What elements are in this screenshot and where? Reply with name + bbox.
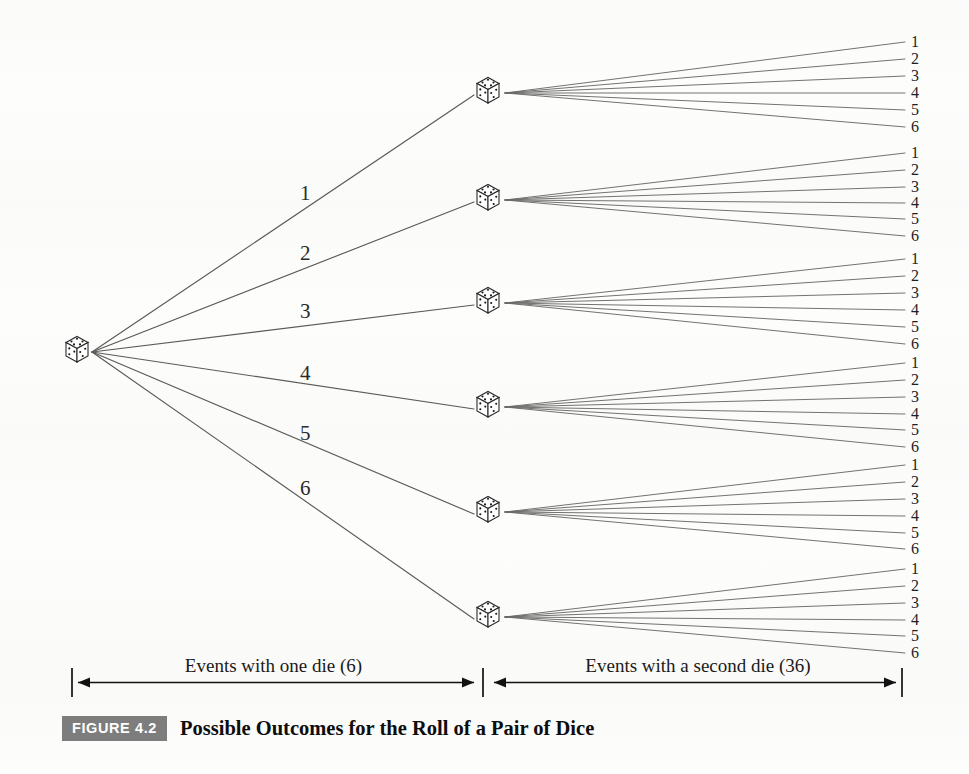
die-icon bbox=[477, 602, 499, 628]
branch-label-1: 1 bbox=[300, 183, 311, 204]
level-1-branch-lines bbox=[92, 95, 474, 619]
leaf-label: 3 bbox=[911, 491, 919, 507]
leaf-label: 6 bbox=[911, 439, 919, 455]
leaf-label: 6 bbox=[911, 336, 919, 352]
leaf-label: 3 bbox=[911, 68, 919, 84]
leaf-label: 4 bbox=[911, 406, 919, 422]
leaf-label: 4 bbox=[911, 85, 919, 101]
leaf-label: 3 bbox=[911, 285, 919, 301]
leaf-label: 4 bbox=[911, 612, 919, 628]
axis-caption-right: Events with a second die (36) bbox=[494, 655, 902, 677]
die-icon bbox=[477, 392, 499, 418]
branch-label-6: 6 bbox=[300, 478, 311, 499]
leaf-label: 4 bbox=[911, 302, 919, 318]
leaf-label: 2 bbox=[911, 162, 919, 178]
branch-label-5: 5 bbox=[300, 423, 311, 444]
leaf-label: 5 bbox=[911, 525, 919, 541]
figure-caption: FIGURE 4.2 Possible Outcomes for the Rol… bbox=[62, 716, 594, 741]
level-2-branch-lines bbox=[505, 42, 905, 653]
leaf-label: 2 bbox=[911, 268, 919, 284]
leaf-label: 1 bbox=[911, 251, 919, 267]
die-icon bbox=[477, 185, 499, 211]
leaf-label: 2 bbox=[911, 474, 919, 490]
leaf-label: 3 bbox=[911, 595, 919, 611]
die-icon bbox=[66, 337, 88, 363]
leaf-label: 1 bbox=[911, 145, 919, 161]
leaf-label: 5 bbox=[911, 211, 919, 227]
die-icon bbox=[477, 288, 499, 314]
figure-number-badge: FIGURE 4.2 bbox=[62, 716, 167, 741]
leaf-label: 1 bbox=[911, 561, 919, 577]
leaf-label: 2 bbox=[911, 578, 919, 594]
leaf-label: 4 bbox=[911, 195, 919, 211]
leaf-label: 3 bbox=[911, 179, 919, 195]
die-icon bbox=[477, 497, 499, 523]
leaf-label: 5 bbox=[911, 628, 919, 644]
axis-caption-left: Events with one die (6) bbox=[72, 655, 475, 677]
figure-page: 1 2 3 4 5 6 1 2 3 4 5 6 1 2 3 4 5 6 1 2 … bbox=[0, 0, 969, 774]
branch-label-3: 3 bbox=[300, 301, 311, 322]
leaf-label: 5 bbox=[911, 422, 919, 438]
leaf-label: 4 bbox=[911, 508, 919, 524]
leaf-label: 1 bbox=[911, 34, 919, 50]
die-icon bbox=[477, 78, 499, 104]
figure-title: Possible Outcomes for the Roll of a Pair… bbox=[180, 717, 594, 740]
leaf-label: 6 bbox=[911, 119, 919, 135]
leaf-label: 2 bbox=[911, 51, 919, 67]
leaf-label: 2 bbox=[911, 372, 919, 388]
branch-label-2: 2 bbox=[300, 243, 311, 264]
leaf-label: 1 bbox=[911, 457, 919, 473]
leaf-label: 3 bbox=[911, 389, 919, 405]
leaf-label: 5 bbox=[911, 102, 919, 118]
branch-label-4: 4 bbox=[300, 363, 311, 384]
leaf-label: 6 bbox=[911, 541, 919, 557]
leaf-label: 1 bbox=[911, 355, 919, 371]
leaf-label: 5 bbox=[911, 319, 919, 335]
leaf-label: 6 bbox=[911, 645, 919, 661]
leaf-label: 6 bbox=[911, 228, 919, 244]
